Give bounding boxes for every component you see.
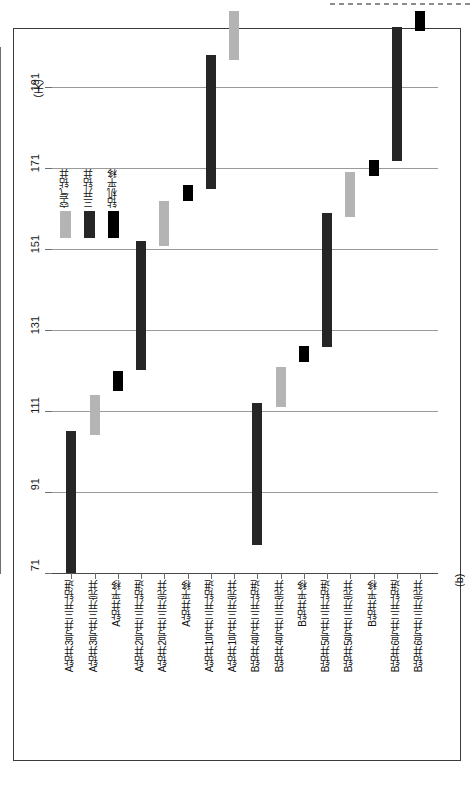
category-tick-mark <box>118 573 119 579</box>
category-label: A钻井3号井三开完井 <box>89 580 102 672</box>
category-label: A钻井2号井三开钻进 <box>135 580 148 672</box>
gridline <box>52 330 438 331</box>
value-tick-label: 171 <box>29 154 43 172</box>
legend-swatch-air-drilling <box>60 211 71 238</box>
bar <box>369 160 379 176</box>
category-label: A钻井平移 <box>182 580 195 627</box>
legend-label: 三开钻井 <box>81 168 97 208</box>
category-label: B钻井平移 <box>298 580 311 627</box>
bar <box>183 185 193 201</box>
legend-swatch-third-open-drilling <box>84 211 95 238</box>
category-tick-mark <box>164 573 165 579</box>
bar <box>322 213 332 347</box>
bar <box>113 371 123 391</box>
value-tick-label: 131 <box>29 316 43 334</box>
legend-label: 钻机平移 <box>105 168 121 208</box>
bar <box>276 367 286 407</box>
bar <box>299 346 309 362</box>
legend-item-2: 钻机平移 <box>105 150 127 238</box>
category-label: A钻井2号井三开完井 <box>158 580 171 672</box>
legend-item-1: 三开钻井 <box>81 150 103 238</box>
category-tick-mark <box>95 573 96 579</box>
category-tick-mark <box>327 573 328 579</box>
legend-swatch-rig-move <box>108 211 119 238</box>
gridline <box>52 87 438 88</box>
legend-label: 空气钻井 <box>57 168 73 208</box>
value-tick-mark <box>45 87 52 88</box>
value-tick-mark <box>45 573 52 574</box>
category-label: A钻井1号井三开钻进 <box>205 580 218 672</box>
category-label: B钻井5号井三开钻进 <box>321 580 334 672</box>
bar <box>159 201 169 246</box>
category-tick-mark <box>304 573 305 579</box>
category-label: B钻井6号井三开钻进 <box>391 580 404 672</box>
category-axis-line <box>52 573 438 574</box>
bar <box>415 11 425 31</box>
value-tick-label: 111 <box>29 397 43 414</box>
category-tick-mark <box>350 573 351 579</box>
bar <box>206 55 216 189</box>
gridline <box>52 411 438 412</box>
bar <box>136 241 146 370</box>
bar <box>345 172 355 217</box>
category-tick-mark <box>71 573 72 579</box>
chart-legend: 空气钻井 三开钻井 钻机平移 <box>57 150 127 240</box>
category-tick-mark <box>211 573 212 579</box>
figure-caption: (b) <box>450 560 468 600</box>
category-label: B钻井4号井三开完井 <box>275 580 288 672</box>
gridline <box>52 249 438 250</box>
bar <box>392 27 402 161</box>
bar <box>66 431 76 573</box>
bar <box>252 403 262 545</box>
value-tick-mark <box>45 168 52 169</box>
category-label: A钻井3号井三开钻进 <box>65 580 78 672</box>
category-label: B钻井6号井三开完井 <box>414 580 427 672</box>
category-label: B钻井4号井三开钻进 <box>251 580 264 672</box>
category-tick-mark <box>234 573 235 579</box>
value-tick-label: 191 <box>29 73 43 91</box>
bar <box>229 11 239 60</box>
category-label: A钻井1号井三开完井 <box>228 580 241 672</box>
category-label: B钻井平移 <box>368 580 381 627</box>
value-tick-mark <box>45 330 52 331</box>
category-tick-mark <box>141 573 142 579</box>
category-tick-mark <box>281 573 282 579</box>
category-label: A钻井平移 <box>112 580 125 627</box>
gantt-bar-chart: （天） 空气钻井 三开钻井 钻机平移 7191111131151171191 A… <box>0 0 474 803</box>
value-tick-label: 91 <box>29 478 43 490</box>
legend-item-0: 空气钻井 <box>57 150 79 238</box>
category-tick-mark <box>188 573 189 579</box>
bar <box>90 395 100 435</box>
value-tick-mark <box>45 249 52 250</box>
value-tick-mark <box>45 492 52 493</box>
gridline <box>52 492 438 493</box>
gridline <box>52 168 438 169</box>
value-tick-mark <box>45 411 52 412</box>
category-tick-mark <box>257 573 258 579</box>
category-tick-mark <box>420 573 421 579</box>
value-tick-label: 71 <box>29 559 43 571</box>
category-tick-mark <box>374 573 375 579</box>
value-tick-label: 151 <box>29 235 43 253</box>
category-tick-mark <box>397 573 398 579</box>
category-label: B钻井5号井三开完井 <box>344 580 357 672</box>
plot-area <box>52 47 438 573</box>
value-axis-line <box>0 47 1 574</box>
